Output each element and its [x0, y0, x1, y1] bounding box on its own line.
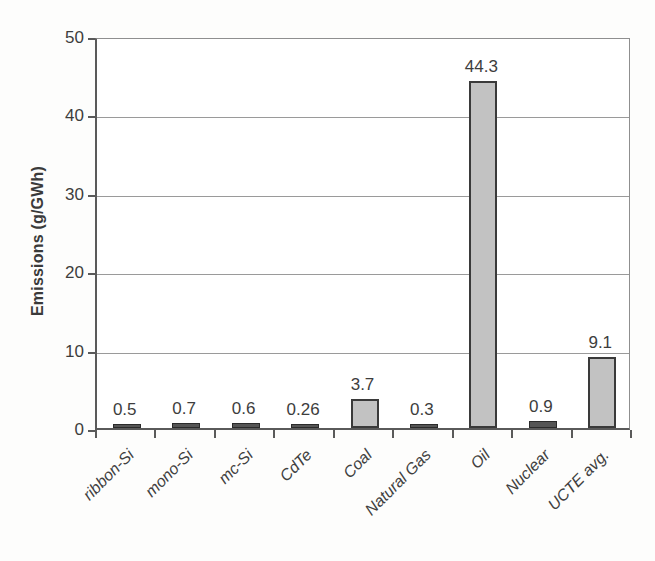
- x-axis-category-labels: ribbon-Simono-Simc-SiCdTeCoalNatural Gas…: [0, 440, 655, 561]
- x-tick-mark: [392, 430, 394, 438]
- x-axis-tick-marks: [95, 430, 631, 440]
- x-tick-mark: [214, 430, 216, 438]
- bar: [113, 424, 141, 428]
- x-axis-label: ribbon-Si: [0, 446, 137, 561]
- bar-value-label: 3.7: [328, 375, 398, 395]
- gridline: [97, 117, 629, 118]
- bar: [469, 81, 497, 428]
- gridline: [97, 196, 629, 197]
- gridline: [97, 274, 629, 275]
- bar: [410, 424, 438, 428]
- bar: [232, 423, 260, 428]
- bar-value-label: 0.9: [506, 397, 576, 417]
- bar-chart-figure: Emissions (g/GWh) 01020304050 0.50.70.60…: [0, 0, 655, 561]
- plot-area: [95, 38, 630, 430]
- x-tick-mark: [95, 430, 97, 438]
- x-tick-mark: [273, 430, 275, 438]
- x-tick-mark: [571, 430, 573, 438]
- bar: [291, 424, 319, 428]
- bar: [172, 423, 200, 428]
- y-axis-tick-marks: [0, 38, 96, 430]
- x-tick-mark: [452, 430, 454, 438]
- bar: [588, 357, 616, 428]
- bar-value-label: 9.1: [565, 333, 635, 353]
- bar-value-label: 0.3: [387, 400, 457, 420]
- gridline: [97, 353, 629, 354]
- bar: [529, 421, 557, 428]
- bar-value-label: 0.26: [268, 400, 338, 420]
- bar-value-label: 44.3: [446, 57, 516, 77]
- bar: [351, 399, 379, 428]
- x-tick-mark: [333, 430, 335, 438]
- x-tick-mark: [630, 430, 632, 438]
- x-tick-mark: [511, 430, 513, 438]
- x-tick-mark: [154, 430, 156, 438]
